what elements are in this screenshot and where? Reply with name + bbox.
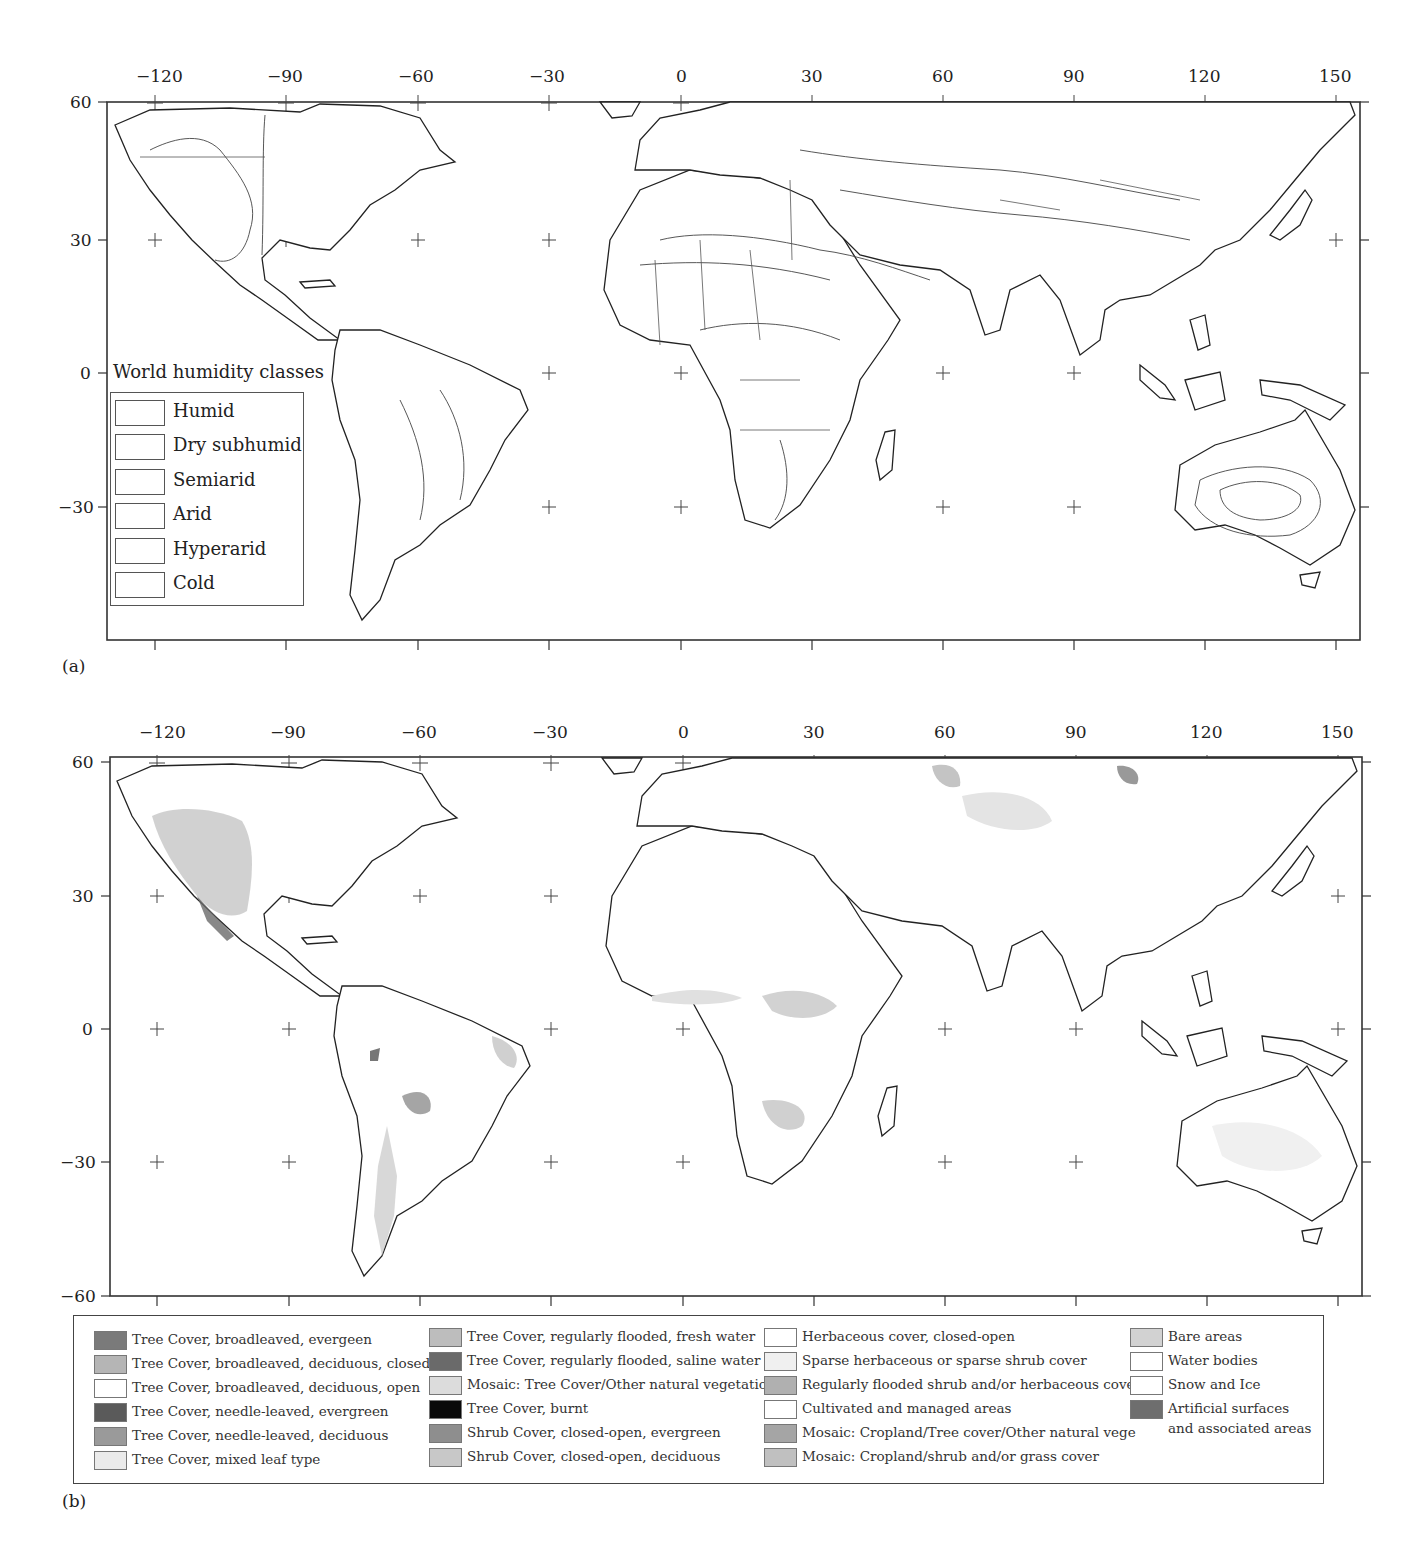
legend-label: Snow and Ice (1168, 1376, 1260, 1393)
legend-label: Shrub Cover, closed-open, deciduous (467, 1448, 720, 1465)
legend-label: Water bodies (1168, 1352, 1258, 1369)
legend-swatch (764, 1424, 797, 1443)
legend-swatch (1130, 1352, 1163, 1371)
legend-swatch (764, 1328, 797, 1347)
legend-label: Tree Cover, regularly flooded, saline wa… (467, 1352, 760, 1369)
legend-swatch (764, 1376, 797, 1395)
legend-swatch (94, 1427, 127, 1446)
north-america (117, 760, 457, 996)
legend-swatch (1130, 1376, 1163, 1395)
legend-swatch (429, 1328, 462, 1347)
legend-label: Mosaic: Cropland/shrub and/or grass cove… (802, 1448, 1099, 1465)
panel-label-b: (b) (62, 1491, 86, 1511)
legend-swatch (764, 1400, 797, 1419)
legend-b: Tree Cover, broadleaved, evergeen Tree C… (73, 1315, 1324, 1484)
continents-b (117, 758, 1357, 1276)
legend-label: Tree Cover, mixed leaf type (132, 1451, 320, 1468)
legend-label: Tree Cover, broadleaved, deciduous, open (132, 1379, 420, 1396)
legend-label: Cultivated and managed areas (802, 1400, 1011, 1417)
legend-label: Bare areas (1168, 1328, 1242, 1345)
legend-swatch (94, 1331, 127, 1350)
legend-label: Artificial surfaces and associated areas (1168, 1398, 1318, 1438)
legend-swatch (429, 1448, 462, 1467)
legend-label: Regularly flooded shrub and/or herbaceou… (802, 1376, 1141, 1393)
legend-swatch (764, 1448, 797, 1467)
legend-swatch (429, 1424, 462, 1443)
legend-label: Shrub Cover, closed-open, evergreen (467, 1424, 721, 1441)
legend-swatch (764, 1352, 797, 1371)
legend-swatch (94, 1355, 127, 1374)
legend-label: Mosaic: Cropland/Tree cover/Other natura… (802, 1424, 1136, 1441)
south-america (334, 986, 530, 1276)
legend-label: Tree Cover, burnt (467, 1400, 588, 1417)
legend-label: Herbaceous cover, closed-open (802, 1328, 1015, 1345)
legend-swatch (429, 1352, 462, 1371)
legend-label: Tree Cover, broadleaved, evergeen (132, 1331, 372, 1348)
legend-label: Tree Cover, needle-leaved, evergreen (132, 1403, 389, 1420)
legend-swatch (94, 1379, 127, 1398)
legend-swatch (94, 1451, 127, 1470)
legend-swatch (1130, 1328, 1163, 1347)
legend-swatch (94, 1403, 127, 1422)
legend-label: Tree Cover, regularly flooded, fresh wat… (467, 1328, 755, 1345)
legend-swatch (429, 1376, 462, 1395)
legend-label: Tree Cover, needle-leaved, deciduous (132, 1427, 388, 1444)
legend-label: Sparse herbaceous or sparse shrub cover (802, 1352, 1087, 1369)
legend-label: Tree Cover, broadleaved, deciduous, clos… (132, 1355, 430, 1372)
legend-swatch (1130, 1400, 1163, 1419)
legend-swatch (429, 1400, 462, 1419)
legend-label: Mosaic: Tree Cover/Other natural vegetat… (467, 1376, 776, 1393)
